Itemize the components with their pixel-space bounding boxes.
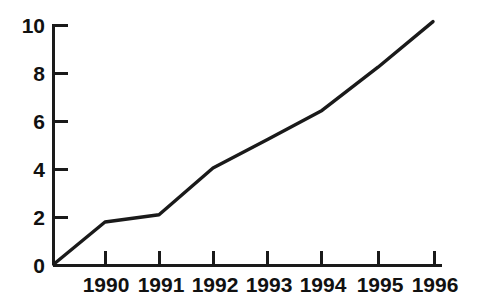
line-chart: 10 8 6 4 2 0 1990 1991 1992 1993 1994 19… bbox=[0, 0, 479, 307]
y-axis-tick-label-10: 10 bbox=[0, 15, 45, 36]
y-axis-tick-label-6: 6 bbox=[0, 111, 45, 132]
y-axis-tick-label-2: 2 bbox=[0, 207, 45, 228]
x-axis-ticks bbox=[106, 251, 435, 265]
data-line-series-1 bbox=[54, 22, 433, 264]
y-axis-tick-label-8: 8 bbox=[0, 63, 45, 84]
chart-plot-area bbox=[0, 0, 479, 307]
x-axis-tick-label-1996: 1996 bbox=[391, 274, 479, 295]
y-axis-ticks bbox=[53, 26, 68, 218]
y-axis-tick-label-4: 4 bbox=[0, 159, 45, 180]
y-axis-tick-label-0: 0 bbox=[0, 255, 45, 276]
